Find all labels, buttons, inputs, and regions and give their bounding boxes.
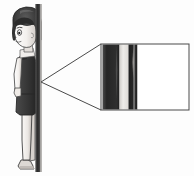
band-white	[138, 45, 190, 110]
measuring-post	[36, 4, 42, 172]
post-body	[36, 4, 41, 172]
illustration-canvas: Girl standing beside a vertical measurin…	[0, 0, 194, 176]
shoe-shadow	[19, 166, 34, 169]
ear	[31, 33, 34, 38]
illustration-svg	[0, 0, 194, 176]
hand	[14, 88, 21, 97]
leg-near	[22, 110, 32, 160]
band-light	[120, 45, 129, 110]
detail-box	[101, 44, 190, 110]
eye-pupil	[18, 32, 20, 34]
